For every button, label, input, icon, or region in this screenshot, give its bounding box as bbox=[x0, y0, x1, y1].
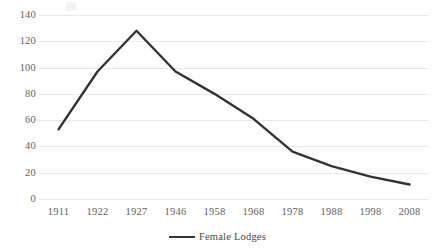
gridline bbox=[39, 199, 429, 200]
x-tick-label: 1968 bbox=[234, 206, 273, 222]
x-tick-label: 1911 bbox=[39, 206, 78, 222]
x-tick-label: 1946 bbox=[156, 206, 195, 222]
x-tick-label: 1988 bbox=[312, 206, 351, 222]
y-tick-label: 140 bbox=[2, 10, 36, 20]
y-tick-label: 20 bbox=[2, 168, 36, 178]
y-tick-label: 80 bbox=[2, 89, 36, 99]
image-artifact bbox=[66, 2, 76, 11]
legend-swatch-female-lodges bbox=[169, 236, 195, 238]
y-tick-label: 120 bbox=[2, 36, 36, 46]
x-tick-label: 1922 bbox=[78, 206, 117, 222]
y-tick-label: 100 bbox=[2, 63, 36, 73]
series-female-lodges bbox=[39, 15, 429, 199]
legend-label-female-lodges: Female Lodges bbox=[199, 231, 266, 243]
x-axis: 1911192219271946195819681978198819982008 bbox=[39, 206, 429, 222]
x-tick-label: 1958 bbox=[195, 206, 234, 222]
y-axis: 020406080100120140 bbox=[0, 15, 36, 199]
y-tick-label: 40 bbox=[2, 141, 36, 151]
x-tick-label: 2008 bbox=[390, 206, 429, 222]
x-tick-label: 1927 bbox=[117, 206, 156, 222]
plot-area bbox=[39, 15, 429, 199]
y-tick-label: 0 bbox=[2, 194, 36, 204]
y-tick-label: 60 bbox=[2, 115, 36, 125]
chart-legend: Female Lodges bbox=[0, 231, 435, 243]
series-line-female-lodges bbox=[59, 31, 410, 185]
x-tick-label: 1978 bbox=[273, 206, 312, 222]
line-chart: 020406080100120140 191119221927194619581… bbox=[0, 0, 435, 251]
x-tick-label: 1998 bbox=[351, 206, 390, 222]
